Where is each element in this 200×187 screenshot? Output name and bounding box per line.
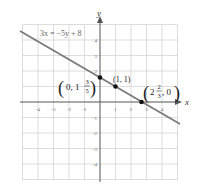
y-axis-label: y: [96, 8, 101, 18]
label-x-intercept: ( 2 2 3 , 0 ): [143, 83, 180, 104]
svg-text:-4: -4: [93, 162, 98, 167]
point-y-intercept: [98, 75, 103, 80]
svg-text:(: (: [58, 78, 64, 99]
svg-text:2: 2: [95, 69, 98, 74]
label-point-1-1: (1, 1): [113, 75, 131, 84]
svg-text:2: 2: [130, 107, 133, 112]
svg-text:3: 3: [95, 54, 98, 59]
coordinate-plane-graph: x y -4 -3 -2 -1 1 2 3 4 4 3 2 -1 -2 -3 -…: [0, 0, 200, 187]
svg-text:4: 4: [95, 38, 98, 43]
label-y-intercept: ( 0, 1 3 5 ): [58, 78, 96, 99]
svg-text:(: (: [143, 83, 149, 104]
equation-label: 3x = −5y + 8: [40, 29, 82, 38]
svg-text:-2: -2: [93, 131, 98, 136]
svg-text:2: 2: [157, 83, 160, 90]
svg-text:1: 1: [114, 107, 117, 112]
svg-text:-3: -3: [51, 107, 56, 112]
svg-text:2: 2: [150, 87, 155, 97]
x-axis-label: x: [184, 97, 189, 107]
svg-text:5: 5: [85, 87, 88, 94]
svg-text:-1: -1: [82, 107, 87, 112]
svg-text:0, 1: 0, 1: [66, 82, 80, 92]
svg-text:, 0: , 0: [162, 87, 172, 97]
svg-text:4: 4: [161, 107, 164, 112]
svg-text:3: 3: [157, 92, 160, 99]
svg-text:): ): [90, 78, 96, 99]
svg-text:-1: -1: [93, 116, 98, 121]
svg-text:-2: -2: [67, 107, 72, 112]
point-1-1: [113, 84, 118, 89]
svg-text:3: 3: [145, 107, 148, 112]
svg-text:): ): [174, 83, 180, 104]
svg-text:-3: -3: [93, 147, 98, 152]
svg-text:3: 3: [85, 78, 88, 85]
svg-text:-4: -4: [36, 107, 41, 112]
